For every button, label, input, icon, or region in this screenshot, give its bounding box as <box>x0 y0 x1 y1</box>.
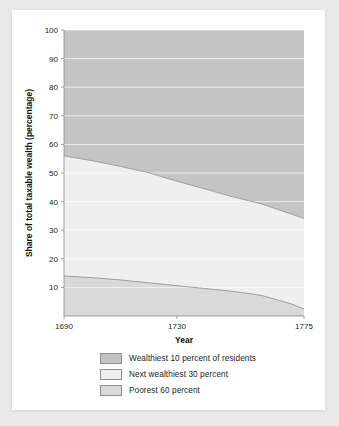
y-tick-label-30: 30 <box>49 226 58 235</box>
y-tick-label-100: 100 <box>45 26 59 35</box>
legend-swatch-poorest-60 <box>100 385 122 396</box>
y-tick-label-60: 60 <box>49 140 58 149</box>
x-tick-label-1690: 1690 <box>55 322 73 331</box>
y-axis-ticks: 102030405060708090100 <box>45 26 64 292</box>
y-tick-label-70: 70 <box>49 112 58 121</box>
chart-legend: Wealthiest 10 percent of residents Next … <box>100 351 320 399</box>
y-tick-label-50: 50 <box>49 169 58 178</box>
y-tick-label-40: 40 <box>49 198 58 207</box>
legend-item-wealthiest-10: Wealthiest 10 percent of residents <box>100 351 320 366</box>
figure-card: 102030405060708090100 169017301775 Share… <box>12 10 325 410</box>
stacked-area-chart: 102030405060708090100 169017301775 Share… <box>12 10 325 410</box>
legend-label-wealthiest-10: Wealthiest 10 percent of residents <box>129 354 256 363</box>
legend-label-poorest-60: Poorest 60 percent <box>129 386 200 395</box>
y-tick-label-90: 90 <box>49 55 58 64</box>
legend-swatch-wealthiest-10 <box>100 353 122 364</box>
chart-plot-area: 102030405060708090100 169017301775 Share… <box>12 10 325 410</box>
y-tick-label-80: 80 <box>49 83 58 92</box>
y-axis-title: Share of total taxable wealth (percentag… <box>24 89 34 257</box>
x-axis-ticks: 169017301775 <box>55 316 313 331</box>
legend-swatch-next-wealthiest-30 <box>100 369 122 380</box>
x-tick-label-1730: 1730 <box>168 322 186 331</box>
legend-item-next-wealthiest-30: Next wealthiest 30 percent <box>100 367 320 382</box>
y-tick-label-10: 10 <box>49 283 58 292</box>
x-axis-title: Year <box>175 335 194 345</box>
y-tick-label-20: 20 <box>49 255 58 264</box>
legend-label-next-wealthiest-30: Next wealthiest 30 percent <box>129 370 228 379</box>
legend-item-poorest-60: Poorest 60 percent <box>100 383 320 398</box>
x-tick-label-1775: 1775 <box>295 322 313 331</box>
